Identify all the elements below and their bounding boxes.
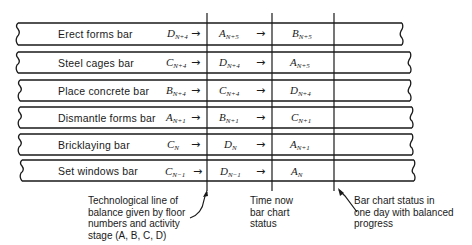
arrow-right-icon: →: [193, 165, 202, 178]
bar-label-bricklaying: Bricklaying bar: [58, 139, 130, 151]
arrow-right-icon: →: [256, 138, 265, 151]
annotation-time-now: Time now bar chart status: [250, 195, 293, 230]
annotation-line: balance given by floor: [88, 207, 185, 219]
bar-label-set-windows: Set windows bar: [58, 165, 138, 177]
cell-stage: DN+4: [290, 84, 311, 98]
annotation-line: Bar chart status in: [354, 195, 454, 207]
cell-stage: AN+5: [219, 27, 239, 41]
bar-label-steel-cages: Steel cages bar: [58, 57, 134, 69]
annotation-line: stage (A, B, C, D): [88, 230, 185, 242]
annotation-line-of-balance: Technological line of balance given by f…: [88, 195, 185, 241]
cell-stage: DN−1: [220, 165, 241, 179]
cell-stage: AN: [291, 165, 302, 179]
cell-stage: CN+4: [219, 84, 239, 98]
arrow-right-icon: →: [191, 138, 200, 151]
cell-stage: AN+1: [290, 138, 310, 152]
cell-stage: DN+4: [219, 56, 240, 70]
annotation-one-day: Bar chart status in one day with balance…: [354, 195, 454, 230]
cell-stage: CN+1: [291, 111, 311, 125]
bar-label-place-concrete: Place concrete bar: [58, 85, 149, 97]
arrow-right-icon: →: [191, 27, 200, 40]
bar-label-dismantle-forms: Dismantle forms bar: [58, 112, 156, 124]
arrow-right-icon: →: [256, 165, 265, 178]
cell-stage: DN: [224, 138, 237, 152]
cell-stage: BN+4: [166, 84, 186, 98]
cell-stage: AN+5: [290, 56, 310, 70]
annotation-line: Technological line of: [88, 195, 185, 207]
arrow-right-icon: →: [256, 56, 265, 69]
cell-stage: CN: [167, 138, 179, 152]
arrow-right-icon: →: [191, 56, 200, 69]
arrow-right-icon: →: [191, 84, 200, 97]
annotation-line: progress: [354, 218, 454, 230]
cell-stage: BN+1: [219, 111, 239, 125]
arrow-right-icon: →: [256, 27, 265, 40]
annotation-line: status: [250, 218, 293, 230]
cell-stage: CN+4: [166, 56, 186, 70]
annotation-line: one day with balanced: [354, 207, 454, 219]
arrow-right-icon: →: [256, 84, 265, 97]
arrow-right-icon: →: [191, 111, 200, 124]
bar-label-erect-forms: Erect forms bar: [58, 28, 133, 40]
annotation-line: numbers and activity: [88, 218, 185, 230]
cell-stage: CN−1: [165, 165, 185, 179]
annotation-line: bar chart: [250, 207, 293, 219]
arrow-right-icon: →: [256, 111, 265, 124]
annotation-line: Time now: [250, 195, 293, 207]
cell-stage: BN+5: [292, 27, 312, 41]
cell-stage: AN+1: [166, 111, 186, 125]
cell-stage: DN+4: [167, 27, 188, 41]
